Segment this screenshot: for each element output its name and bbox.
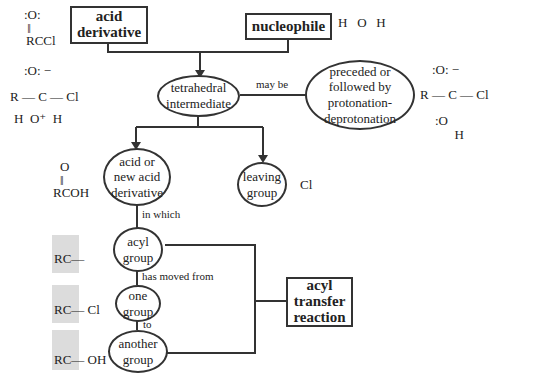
acyl-fragment-label: RC— bbox=[54, 252, 84, 266]
chloride-ion-label: Cl bbox=[300, 178, 312, 192]
nucleophile-box: nucleophile bbox=[245, 13, 332, 40]
water-structure: H O H bbox=[338, 16, 386, 30]
tetrahedral-right-label: R — C — Cl bbox=[420, 88, 489, 102]
may-be-label: may be bbox=[256, 78, 288, 90]
protonation-node: preceded or followed by protonation- dep… bbox=[305, 60, 415, 130]
acid-new-derivative-node: acid or new acid derivative bbox=[103, 148, 171, 206]
leaving-group-node: leaving group bbox=[237, 162, 287, 207]
acid-derivative-box: acid derivative bbox=[70, 6, 148, 44]
to-label: to bbox=[143, 318, 152, 330]
carboxylic-acid-label: RCOH bbox=[53, 186, 89, 200]
one-group-node: one group bbox=[115, 285, 161, 322]
acyl-group-node: acyl group bbox=[113, 227, 163, 272]
acyl-transfer-box: acyl transfer reaction bbox=[286, 277, 353, 327]
tetrahedral-intermediate-node: tetrahedral intermediate bbox=[157, 75, 240, 117]
tetrahedral-right-oh: :O H bbox=[435, 114, 464, 143]
tetrahedral-right-top: :O: − bbox=[432, 63, 459, 77]
acyl-oh-label: RC— OH bbox=[54, 353, 106, 367]
tetrahedral-left-label: R — C — Cl bbox=[10, 90, 79, 104]
tetrahedral-left-structure: :O: − bbox=[24, 64, 51, 78]
acyl-chloride-label: RCCl bbox=[26, 34, 56, 48]
another-group-node: another group bbox=[108, 330, 168, 373]
acyl-cl-label: RC— Cl bbox=[54, 303, 100, 317]
in-which-label: in which bbox=[142, 208, 180, 220]
tetrahedral-left-oh2: H O⁺ H bbox=[14, 112, 62, 126]
has-moved-from-label: has moved from bbox=[142, 270, 213, 282]
